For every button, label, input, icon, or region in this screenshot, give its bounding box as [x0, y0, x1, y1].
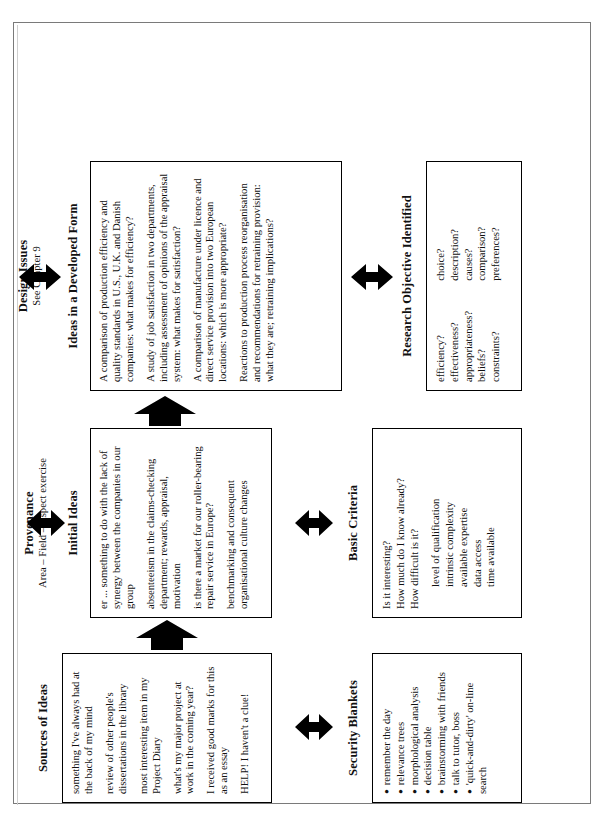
list-item: remember the day: [380, 662, 394, 794]
box-security-blankets: remember the day relevance trees morphol…: [372, 653, 522, 803]
double-headed-arrow-icon: [294, 709, 334, 745]
source-item: most interesting item in my Project Diar…: [138, 662, 164, 794]
box-initial-ideas: er ... something to do with the lack of …: [90, 428, 272, 618]
double-headed-arrow-icon: [26, 505, 66, 541]
section-title-basic-criteria: Basic Criteria: [346, 428, 361, 618]
list-item: choice?: [434, 227, 448, 281]
scanned-page-frame: Sources of Ideas something I've always h…: [13, 22, 591, 804]
section-title-research-objective-identified: Research Objective Identified: [400, 161, 415, 391]
developed-idea-item: A comparison of production efficiency an…: [98, 170, 137, 382]
source-item: review of other people's dissertations i…: [104, 662, 130, 794]
developed-idea-item: Reactions to production process reorgani…: [238, 170, 277, 382]
list-item: beliefs?: [475, 311, 489, 382]
source-item: HELP! I haven't a clue!: [239, 662, 252, 794]
flow-arrow-icon: [134, 619, 200, 651]
list-item: morphological analysis: [408, 662, 422, 794]
double-headed-arrow-icon: [350, 259, 394, 295]
security-blankets-list: remember the day relevance trees morphol…: [380, 662, 490, 794]
research-objective-columns: efficiency? effectiveness? appropriatene…: [434, 170, 503, 382]
list-item: decision table: [421, 662, 435, 794]
source-item: what's my major project at work in the c…: [172, 662, 198, 794]
double-headed-arrow-icon: [18, 259, 62, 295]
source-item: I received good marks for this as an ess…: [205, 662, 231, 794]
box-sources-of-ideas: something I've always had at the back of…: [62, 653, 272, 803]
list-item: efficiency?: [434, 311, 448, 382]
list-item: brainstorming with friends: [435, 662, 449, 794]
diagram-stage: Sources of Ideas something I've always h…: [14, 23, 590, 803]
list-item: relevance trees: [394, 662, 408, 794]
list-item: time available: [484, 437, 498, 609]
initial-idea-item: absenteeism in the claims-checking depar…: [145, 437, 184, 609]
list-item: preferences?: [489, 227, 503, 281]
list-item: causes?: [462, 227, 476, 281]
flow-arrow-icon: [132, 395, 198, 427]
list-item: constraints?: [489, 311, 503, 382]
list-item: description?: [448, 227, 462, 281]
double-headed-arrow-icon: [294, 505, 334, 541]
developed-idea-item: A comparison of manufacture under licenc…: [192, 170, 231, 382]
list-item: available expertise: [457, 437, 471, 609]
list-item: effectiveness?: [448, 311, 462, 382]
list-item: How much do I know already?: [394, 437, 408, 609]
basic-criteria-list: Is it interesting? How much do I know al…: [380, 437, 498, 609]
list-item: talk to tutor, boss: [449, 662, 463, 794]
box-basic-criteria: Is it interesting? How much do I know al…: [372, 428, 522, 618]
section-title-sources-of-ideas: Sources of Ideas: [36, 653, 51, 803]
initial-idea-item: er ... something to do with the lack of …: [98, 437, 137, 609]
source-item: something I've always had at the back of…: [70, 662, 96, 794]
box-research-objective-identified: efficiency? effectiveness? appropriatene…: [426, 161, 522, 391]
list-item: level of qualification: [429, 437, 443, 609]
list-item: 'quick-and-dirty' on-line search: [463, 662, 491, 794]
developed-idea-item: A study of job satisfaction in two depar…: [145, 170, 184, 382]
list-item: intrinsic complexity: [443, 437, 457, 609]
research-objective-column-right: choice? description? causes? comparison?…: [434, 227, 503, 281]
list-item: How difficult is it?: [408, 437, 422, 609]
list-item: Is it interesting?: [380, 437, 394, 609]
list-item: data access: [471, 437, 485, 609]
box-ideas-in-a-developed-form: A comparison of production efficiency an…: [90, 161, 342, 391]
section-title-ideas-in-a-developed-form: Ideas in a Developed Form: [66, 161, 81, 391]
list-item: comparison?: [475, 227, 489, 281]
section-title-initial-ideas: Initial Ideas: [66, 428, 81, 618]
section-title-security-blankets: Security Blankets: [346, 653, 361, 803]
initial-idea-item: is there a market for our roller-bearing…: [192, 437, 218, 609]
list-item: appropriateness?: [462, 311, 476, 382]
research-objective-column-left: efficiency? effectiveness? appropriatene…: [434, 311, 503, 382]
initial-idea-item: benchmarking and consequent organisation…: [225, 437, 251, 609]
